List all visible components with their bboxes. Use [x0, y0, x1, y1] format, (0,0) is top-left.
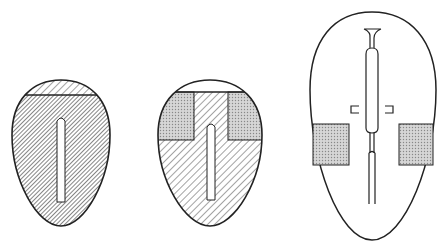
panel-left — [0, 78, 130, 235]
slot — [57, 118, 65, 202]
diagram-canvas — [0, 0, 446, 246]
dotted-block-left — [313, 124, 349, 165]
bracket-right — [385, 106, 393, 113]
panel-middle — [150, 80, 272, 232]
pipette — [364, 29, 381, 204]
dotted-block-right — [399, 124, 433, 165]
slot — [207, 124, 215, 200]
bracket-left — [351, 106, 359, 113]
panel-right — [310, 12, 436, 240]
